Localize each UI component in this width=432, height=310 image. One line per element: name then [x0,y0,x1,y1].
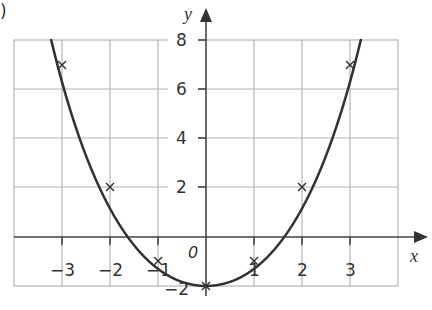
y-axis-label: y [182,4,192,24]
y-axis-arrow-icon [200,8,212,22]
x-tick-2: 2 [297,260,308,280]
parabola-chart: ) y x 0 8 6 4 2 −2 −3 −2 −1 1 2 3 [0,0,432,310]
x-tick-1: 1 [249,260,260,280]
y-tick-8: 8 [176,30,187,50]
x-tick-minus-3: −3 [50,260,75,280]
x-tick-minus-2: −2 [98,260,123,280]
y-tick-4: 4 [176,128,187,148]
y-tick-2: 2 [176,177,187,197]
corner-mark: ) [0,1,7,21]
x-axis-label: x [409,246,418,266]
y-tick-6: 6 [176,79,187,99]
origin-label: 0 [188,243,198,262]
x-axis-arrow-icon [414,231,428,243]
x-tick-3: 3 [345,260,356,280]
y-tick-minus-2: −2 [164,279,189,299]
x-tick-minus-1: −1 [146,260,171,280]
